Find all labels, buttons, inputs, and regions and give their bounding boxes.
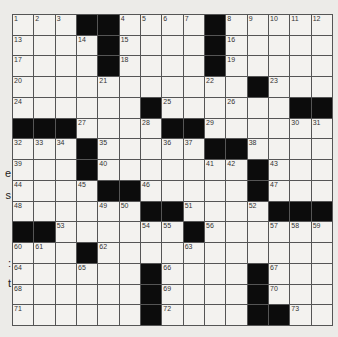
grid-cell[interactable] [162, 77, 182, 97]
grid-cell[interactable] [248, 98, 268, 118]
grid-cell[interactable]: 52 [248, 202, 268, 222]
grid-cell[interactable]: 16 [226, 36, 246, 56]
grid-cell[interactable] [34, 56, 54, 76]
grid-cell[interactable] [162, 36, 182, 56]
grid-cell[interactable] [56, 305, 76, 325]
grid-cell[interactable] [205, 98, 225, 118]
grid-cell[interactable] [312, 305, 332, 325]
grid-cell[interactable]: 21 [98, 77, 118, 97]
grid-cell[interactable]: 29 [205, 119, 225, 139]
grid-cell[interactable]: 23 [269, 77, 289, 97]
grid-cell[interactable] [56, 181, 76, 201]
grid-cell[interactable]: 24 [13, 98, 33, 118]
grid-cell[interactable] [120, 285, 140, 305]
grid-cell[interactable] [141, 139, 161, 159]
grid-cell[interactable] [141, 36, 161, 56]
grid-cell[interactable] [120, 243, 140, 263]
grid-cell[interactable] [98, 222, 118, 242]
grid-cell[interactable]: 7 [184, 15, 204, 35]
grid-cell[interactable] [120, 119, 140, 139]
grid-cell[interactable] [205, 243, 225, 263]
grid-cell[interactable] [34, 36, 54, 56]
grid-cell[interactable]: 14 [77, 36, 97, 56]
grid-cell[interactable]: 4 [120, 15, 140, 35]
grid-cell[interactable] [34, 98, 54, 118]
grid-cell[interactable]: 31 [312, 119, 332, 139]
grid-cell[interactable]: 42 [226, 160, 246, 180]
grid-cell[interactable] [120, 98, 140, 118]
grid-cell[interactable] [98, 285, 118, 305]
grid-cell[interactable] [205, 181, 225, 201]
grid-cell[interactable] [248, 222, 268, 242]
grid-cell[interactable]: 10 [269, 15, 289, 35]
grid-cell[interactable]: 19 [226, 56, 246, 76]
grid-cell[interactable]: 5 [141, 15, 161, 35]
grid-cell[interactable] [162, 243, 182, 263]
grid-cell[interactable] [226, 202, 246, 222]
grid-cell[interactable] [226, 77, 246, 97]
grid-cell[interactable] [312, 36, 332, 56]
grid-cell[interactable] [290, 36, 310, 56]
grid-cell[interactable] [77, 305, 97, 325]
grid-cell[interactable] [162, 160, 182, 180]
grid-cell[interactable]: 17 [13, 56, 33, 76]
grid-cell[interactable]: 22 [205, 77, 225, 97]
grid-cell[interactable] [77, 285, 97, 305]
grid-cell[interactable]: 2 [34, 15, 54, 35]
grid-cell[interactable]: 65 [77, 264, 97, 284]
grid-cell[interactable] [56, 77, 76, 97]
grid-cell[interactable]: 66 [162, 264, 182, 284]
grid-cell[interactable]: 27 [77, 119, 97, 139]
grid-cell[interactable] [34, 181, 54, 201]
grid-cell[interactable] [56, 98, 76, 118]
grid-cell[interactable] [290, 243, 310, 263]
grid-cell[interactable] [205, 305, 225, 325]
grid-cell[interactable] [98, 264, 118, 284]
grid-cell[interactable] [184, 305, 204, 325]
grid-cell[interactable] [312, 56, 332, 76]
grid-cell[interactable] [34, 305, 54, 325]
grid-cell[interactable] [184, 181, 204, 201]
grid-cell[interactable] [248, 243, 268, 263]
grid-cell[interactable] [312, 243, 332, 263]
grid-cell[interactable]: 38 [248, 139, 268, 159]
grid-cell[interactable] [120, 264, 140, 284]
grid-cell[interactable] [56, 285, 76, 305]
grid-cell[interactable]: 44 [13, 181, 33, 201]
grid-cell[interactable] [34, 202, 54, 222]
grid-cell[interactable]: 41 [205, 160, 225, 180]
grid-cell[interactable] [56, 160, 76, 180]
grid-cell[interactable] [226, 181, 246, 201]
grid-cell[interactable] [226, 119, 246, 139]
grid-cell[interactable] [226, 264, 246, 284]
grid-cell[interactable] [248, 56, 268, 76]
grid-cell[interactable] [56, 264, 76, 284]
grid-cell[interactable]: 33 [34, 139, 54, 159]
grid-cell[interactable] [312, 264, 332, 284]
grid-cell[interactable] [205, 264, 225, 284]
grid-cell[interactable] [98, 98, 118, 118]
grid-cell[interactable]: 13 [13, 36, 33, 56]
grid-cell[interactable]: 26 [226, 98, 246, 118]
grid-cell[interactable] [184, 285, 204, 305]
grid-cell[interactable]: 34 [56, 139, 76, 159]
grid-cell[interactable]: 8 [226, 15, 246, 35]
grid-cell[interactable] [269, 36, 289, 56]
grid-cell[interactable]: 56 [205, 222, 225, 242]
grid-cell[interactable]: 49 [98, 202, 118, 222]
grid-cell[interactable] [77, 98, 97, 118]
grid-cell[interactable] [290, 139, 310, 159]
grid-cell[interactable] [290, 285, 310, 305]
grid-cell[interactable] [290, 77, 310, 97]
grid-cell[interactable]: 40 [98, 160, 118, 180]
grid-cell[interactable] [98, 305, 118, 325]
grid-cell[interactable]: 50 [120, 202, 140, 222]
grid-cell[interactable] [34, 77, 54, 97]
grid-cell[interactable]: 53 [56, 222, 76, 242]
grid-cell[interactable]: 18 [120, 56, 140, 76]
grid-cell[interactable] [34, 264, 54, 284]
grid-cell[interactable] [34, 285, 54, 305]
grid-cell[interactable] [269, 98, 289, 118]
grid-cell[interactable] [98, 119, 118, 139]
grid-cell[interactable]: 64 [13, 264, 33, 284]
